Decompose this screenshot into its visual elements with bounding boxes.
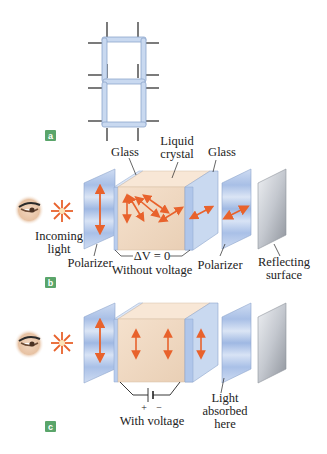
label-polarizer-left: Polarizer [67,256,113,270]
panel-b: Glass Liquid crystal Glass Incoming ligh… [14,134,311,282]
glass-front [114,319,118,382]
label-light: light [48,242,71,256]
panel-badge-a: a [45,130,56,141]
glass-front [114,187,118,250]
light-burst-icon [51,332,73,354]
panel-badge-c: c [45,421,56,432]
label-light-absorbed-2: absorbed [202,404,248,418]
reflecting-surface [258,303,286,383]
polarizer-right [222,169,251,249]
battery-minus: − [156,402,162,413]
caption-with-voltage: With voltage [120,414,185,428]
battery-plus: + [141,402,147,413]
lcd-diagram: a [0,0,327,454]
seven-segment-display [88,22,159,141]
panel-badge-b: b [45,277,56,288]
label-glass-left: Glass [111,145,139,159]
label-surface: surface [266,268,303,282]
panel-c: + − With voltage Light absorbed here [14,303,286,431]
svg-text:b: b [48,278,54,288]
label-reflecting: Reflecting [258,255,311,269]
battery-icon [120,382,180,402]
eye-icon [14,329,44,359]
label-liquid: Liquid [160,134,194,148]
label-crystal: crystal [160,147,194,161]
label-light-absorbed-3: here [214,417,236,431]
svg-text:c: c [48,422,53,432]
polarizer-right [222,303,251,383]
label-light-absorbed-1: Light [211,391,239,405]
label-glass-right: Glass [208,145,236,159]
reflecting-surface [258,169,286,249]
eye-icon [14,195,44,225]
label-incoming: Incoming [35,229,84,243]
light-burst-icon [51,200,73,222]
label-delta-v-zero: ΔV = 0 [134,249,170,263]
caption-without-voltage: Without voltage [112,263,193,277]
label-polarizer-right: Polarizer [197,258,243,272]
